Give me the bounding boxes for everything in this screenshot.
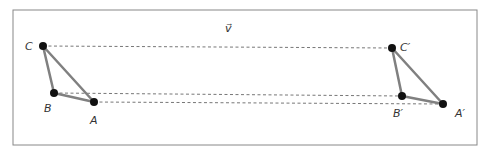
point-c	[39, 42, 47, 50]
diagram-frame	[13, 10, 477, 145]
point-c-prime	[388, 44, 396, 52]
label-b-prime: B′	[393, 107, 404, 120]
vector-v-label: v⃗	[225, 22, 232, 35]
label-a: A	[89, 114, 98, 127]
label-c: C	[25, 40, 33, 53]
label-c-prime: C′	[400, 41, 411, 54]
translation-diagram: C B A C′ B′ A′ v⃗	[0, 0, 486, 155]
point-b	[50, 89, 58, 97]
label-a-prime: A′	[454, 107, 466, 120]
point-a-prime	[439, 100, 447, 108]
label-b: B	[44, 102, 52, 115]
point-a	[90, 98, 98, 106]
point-b-prime	[398, 92, 406, 100]
